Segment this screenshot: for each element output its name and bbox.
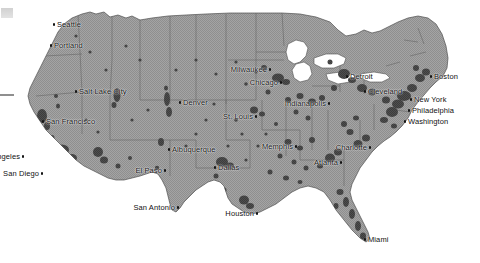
city-label: El Paso <box>135 167 162 175</box>
city-label: Denver <box>183 99 208 107</box>
city-label: Houston <box>225 210 254 218</box>
landmass <box>28 12 448 242</box>
city-name-text: Portland <box>54 41 83 50</box>
city-name-text: Philadelphia <box>412 106 454 115</box>
city-name-text: Boston <box>434 72 458 81</box>
city-label: San Francisco <box>46 118 95 126</box>
city-name-text: Denver <box>183 98 208 107</box>
city-name-text: Miami <box>368 235 389 244</box>
city-name-text: St. Louis <box>223 112 253 121</box>
city-marker-dot <box>255 115 257 117</box>
city-name-text: Milwaukee <box>231 65 267 74</box>
city-label: San Diego <box>3 170 39 178</box>
city-name-text: Memphis <box>262 142 293 151</box>
city-name-text: Cleveland <box>368 87 402 96</box>
city-label: Chicago <box>250 79 278 87</box>
city-name-text: Seattle <box>57 20 81 29</box>
city-name-text: Dallas <box>218 163 239 172</box>
city-marker-dot <box>41 172 43 174</box>
city-name-text: Indianapolis <box>285 99 326 108</box>
city-name-text: Houston <box>225 209 254 218</box>
city-name-text: Los Angeles <box>0 152 20 161</box>
city-name-text: Washington <box>408 117 448 126</box>
edge-tick-line <box>0 94 14 96</box>
city-label: Cleveland <box>368 88 402 96</box>
city-label: Seattle <box>57 21 81 29</box>
city-marker-dot <box>269 68 271 70</box>
city-label: Detroit <box>350 73 373 81</box>
city-name-text: New York <box>414 95 447 104</box>
city-label: Albuquerque <box>172 146 216 154</box>
city-name-text: Salt Lake City <box>79 87 127 96</box>
city-marker-dot <box>256 212 258 214</box>
us-map-graphic <box>0 0 480 263</box>
city-label: Milwaukee <box>231 66 267 74</box>
city-name-text: Albuquerque <box>172 145 216 154</box>
city-label: Charlotte <box>336 144 367 152</box>
city-label: Miami <box>368 236 389 244</box>
city-label: Salt Lake City <box>79 88 127 96</box>
city-name-text: Charlotte <box>336 143 367 152</box>
city-label: Dallas <box>218 164 239 172</box>
city-marker-dot <box>340 161 342 163</box>
city-label: San Antonio <box>133 204 175 212</box>
city-marker-dot <box>164 169 166 171</box>
city-marker-dot <box>22 155 24 157</box>
city-name-text: San Antonio <box>133 203 175 212</box>
city-label: Boston <box>434 73 458 81</box>
city-name-text: Atlanta <box>314 158 338 167</box>
city-label: Memphis <box>262 143 293 151</box>
corner-smudge <box>1 8 13 18</box>
city-name-text: San Diego <box>3 169 39 178</box>
city-label: St. Louis <box>223 113 253 121</box>
city-marker-dot <box>280 81 282 83</box>
city-label: Indianapolis <box>285 100 326 108</box>
city-label: Washington <box>408 118 448 126</box>
city-name-text: Detroit <box>350 72 373 81</box>
city-label: Atlanta <box>314 159 338 167</box>
city-name-text: Chicago <box>250 78 278 87</box>
city-label: Los Angeles <box>0 153 20 161</box>
city-label: New York <box>414 96 447 104</box>
city-label: Portland <box>54 42 83 50</box>
map-figure: SeattlePortlandSalt Lake CitySan Francis… <box>0 0 480 263</box>
city-marker-dot <box>177 206 179 208</box>
city-name-text: San Francisco <box>46 117 95 126</box>
city-marker-dot <box>328 102 330 104</box>
city-marker-dot <box>295 145 297 147</box>
city-name-text: El Paso <box>135 166 162 175</box>
city-marker-dot <box>369 146 371 148</box>
city-label: Philadelphia <box>412 107 454 115</box>
